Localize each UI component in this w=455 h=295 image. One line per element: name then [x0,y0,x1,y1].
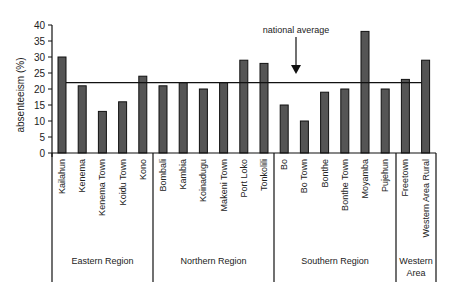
category-label: Kambia [178,159,188,190]
bar [78,86,86,153]
y-axis-title: absenteeism (%) [15,57,26,132]
category-labels: KailahunKenemaKenema TownKoidu TownKonoB… [57,159,431,237]
bar [300,121,308,153]
bar [159,86,167,153]
bar [401,79,409,153]
bar [139,76,147,153]
region-label: Northern Region [180,256,246,266]
bar [260,63,268,153]
y-tick-label: 5 [39,132,45,143]
bar [280,105,288,153]
category-label: Moyamba [360,159,370,199]
category-label: Makeni Town [219,159,229,211]
category-label: Kono [138,159,148,180]
y-tick-label: 35 [34,36,46,47]
bar [361,31,369,153]
bar [119,102,127,153]
category-label: Koinadugu [198,159,208,202]
bar [341,89,349,153]
bar [220,83,228,153]
category-label: Bonthe [320,159,330,188]
bar [381,89,389,153]
bar [240,60,248,153]
bar [321,92,329,153]
y-tick-label: 40 [34,20,46,31]
bars [58,31,430,153]
y-tick-label: 10 [34,116,46,127]
region-label: Area [406,268,425,278]
bar [199,89,207,153]
category-label: Bombali [158,159,168,192]
bar [58,57,66,153]
national-average-annotation: national average [263,25,330,74]
arrow-down-icon [291,65,301,74]
y-tick-label: 20 [34,84,46,95]
category-label: Western Area Rural [421,159,431,237]
absenteeism-bar-chart: 0510152025303540 absenteeism (%) nationa… [0,0,455,295]
category-label: Bonthe Town [340,159,350,211]
category-label: Koidu Town [118,159,128,205]
category-label: Kailahun [57,159,67,194]
category-label: Kenema Town [97,159,107,216]
y-tick-label: 30 [34,52,46,63]
region-label: Eastern Region [71,256,133,266]
category-label: Tonkolili [259,159,269,191]
category-label: Kenema [77,159,87,193]
category-label: Freetown [400,159,410,197]
bar [422,60,430,153]
y-tick-label: 15 [34,100,46,111]
category-label: Pujehun [380,159,390,192]
category-label: Bo [279,159,289,170]
region-label: Southern Region [301,256,369,266]
y-tick-label: 25 [34,68,46,79]
national-average-label: national average [263,25,330,35]
category-label: Port Loko [239,159,249,198]
category-label: Bo Town [299,159,309,193]
y-tick-label: 0 [39,148,45,159]
y-axis: 0510152025303540 [34,20,52,159]
bar [179,83,187,153]
bar [98,111,106,153]
region-label: Western [399,256,432,266]
